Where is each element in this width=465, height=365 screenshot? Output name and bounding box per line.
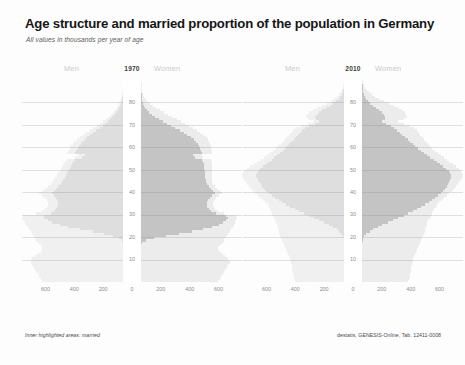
pyramid-row [141, 255, 242, 257]
bar-married [72, 163, 123, 165]
bar-total [286, 248, 344, 250]
bar-total [362, 278, 409, 280]
pyramid-row [362, 197, 463, 199]
pyramid-row [362, 159, 463, 161]
pyramid-row [141, 201, 242, 203]
bar-married [279, 199, 344, 201]
pyramid-row [243, 161, 344, 163]
pyramid-row [362, 152, 463, 154]
pyramid-row [243, 203, 344, 205]
bar-married [141, 221, 223, 223]
pyramid-row [22, 264, 123, 266]
bar-total [38, 253, 123, 255]
pyramid-row [22, 217, 123, 219]
bar-married [274, 156, 344, 158]
bar-married [362, 177, 451, 179]
x-tick-label: 400 [70, 286, 79, 292]
bar-married [56, 188, 123, 190]
pyramid-row [362, 226, 463, 228]
pyramid-row [22, 206, 123, 208]
pyramid-row [141, 116, 242, 118]
age-tick-label: 40 [123, 189, 141, 195]
pyramid-row [141, 183, 242, 185]
pyramid-row [22, 188, 123, 190]
pyramid-row [141, 253, 242, 255]
bar-married [141, 194, 212, 196]
bar-married [141, 210, 211, 212]
bar-total [36, 271, 123, 273]
pyramid-row [141, 134, 242, 136]
pyramid-row [362, 174, 463, 176]
x-tick-label: 400 [185, 286, 194, 292]
pyramid-row [141, 163, 242, 165]
age-tick-label: 50 [344, 167, 362, 173]
bar-married [362, 188, 445, 190]
pyramid-row [362, 203, 463, 205]
pyramid-row [22, 179, 123, 181]
pyramid-row [22, 80, 123, 82]
pyramid-row [243, 262, 344, 264]
pyramid-row [22, 84, 123, 86]
pyramid-row [141, 181, 242, 183]
pyramid-row [362, 264, 463, 266]
pyramid-row [243, 127, 344, 129]
bar-total [292, 269, 344, 271]
bar-total [362, 248, 417, 250]
bar-married [272, 159, 344, 161]
pyramid-row [362, 141, 463, 143]
bar-married [362, 165, 443, 167]
bar-married [317, 114, 344, 116]
pyramid-row [141, 87, 242, 89]
pyramid-row [141, 179, 242, 181]
age-tick-label: 80 [123, 99, 141, 105]
bar-married [262, 185, 344, 187]
pyramid-row [362, 165, 463, 167]
pyramid-row [243, 91, 344, 93]
bar-married [362, 91, 363, 93]
bar-married [141, 179, 206, 181]
bar-total [362, 89, 367, 91]
bar-total [362, 251, 416, 253]
bar-total [141, 239, 224, 241]
pyramid-row [22, 203, 123, 205]
age-tick-label: 10 [123, 256, 141, 262]
pyramid-row [22, 111, 123, 113]
bar-married [362, 224, 382, 226]
age-tick-label: 10 [344, 256, 362, 262]
bar-married [314, 217, 344, 219]
pyramid-row [141, 244, 242, 246]
pyramid-row [243, 98, 344, 100]
pyramid-row [22, 141, 123, 143]
age-tick-label: 20 [344, 234, 362, 240]
bar-married [63, 179, 123, 181]
bar-married [362, 96, 365, 98]
pyramid-row [22, 156, 123, 158]
bar-married [362, 221, 388, 223]
pyramid-row [243, 89, 344, 91]
pyramid-row [141, 230, 242, 232]
pyramid-row [22, 89, 123, 91]
pyramid-row [243, 181, 344, 183]
pyramid-row [141, 278, 242, 280]
bar-married [257, 172, 344, 174]
bar-married [62, 181, 123, 183]
bar-married [58, 201, 123, 203]
pyramid-row [362, 262, 463, 264]
bar-married [291, 141, 344, 143]
age-tick-label: 50 [123, 167, 141, 173]
chart-panel-1970: Men 1970 Women 1020304050607080 60040020… [22, 58, 242, 308]
bar-total [39, 275, 123, 277]
bar-married [76, 150, 123, 152]
pyramid-row [22, 154, 123, 156]
pyramid-row [22, 134, 123, 136]
pyramid-row [243, 206, 344, 208]
bar-total [362, 275, 410, 277]
pyramid-row [362, 109, 463, 111]
pyramid-row [22, 230, 123, 232]
pyramid-row [362, 255, 463, 257]
pyramid-row [141, 224, 242, 226]
pyramid-row [141, 138, 242, 140]
pyramid-row [362, 251, 463, 253]
pyramid-row [141, 208, 242, 210]
pyramid-row [243, 246, 344, 248]
